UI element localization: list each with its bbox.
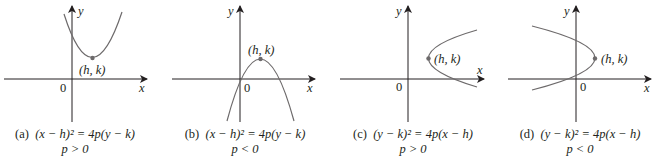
equation-text: (x − h)² = 4p(y − k) bbox=[35, 127, 135, 141]
caption-c: (c) (y − k)² = 4p(x − h) p > 0 bbox=[343, 127, 483, 157]
equation-text: (y − k)² = 4p(x − h) bbox=[540, 127, 640, 141]
origin-label: 0 bbox=[396, 80, 402, 94]
condition-text: p > 0 bbox=[399, 142, 426, 156]
x-axis-label: x bbox=[643, 81, 650, 95]
y-axis-label: y bbox=[394, 4, 402, 18]
caption-equation: (d) (y − k)² = 4p(x − h) bbox=[510, 127, 650, 142]
vertex-dot bbox=[426, 56, 430, 60]
parabola-curve bbox=[227, 59, 294, 121]
caption-condition: p < 0 bbox=[175, 142, 315, 157]
vertex-dot bbox=[258, 57, 262, 61]
vertex-label: (h, k) bbox=[79, 63, 105, 77]
parabola-curve bbox=[64, 12, 122, 58]
origin-label: 0 bbox=[244, 81, 250, 95]
panel-b: y x 0 (h, k) bbox=[172, 4, 315, 122]
caption-equation: (a) (x − h)² = 4p(y − k) bbox=[5, 127, 145, 142]
vertex-dot bbox=[593, 56, 597, 60]
vertex-label: (h, k) bbox=[601, 52, 627, 66]
equation-text: (x − h)² = 4p(y − k) bbox=[205, 127, 305, 141]
condition-text: p > 0 bbox=[61, 142, 88, 156]
caption-equation: (c) (y − k)² = 4p(x − h) bbox=[343, 127, 483, 142]
panel-a: y x 0 (h, k) bbox=[4, 4, 147, 122]
panel-c: y x 0 (h, k) bbox=[340, 4, 484, 122]
equation-text: (y − k)² = 4p(x − h) bbox=[373, 127, 473, 141]
vertex-label: (h, k) bbox=[434, 52, 460, 66]
caption-b: (b) (x − h)² = 4p(y − k) p < 0 bbox=[175, 127, 315, 157]
panel-d: y x 0 (h, k) bbox=[508, 4, 651, 122]
caption-tag: (c) bbox=[353, 127, 367, 141]
caption-a: (a) (x − h)² = 4p(y − k) p > 0 bbox=[5, 127, 145, 157]
caption-equation: (b) (x − h)² = 4p(y − k) bbox=[175, 127, 315, 142]
condition-text: p < 0 bbox=[566, 142, 593, 156]
vertex-label: (h, k) bbox=[248, 43, 274, 57]
y-axis-label: y bbox=[562, 4, 570, 18]
caption-condition: p > 0 bbox=[5, 142, 145, 157]
y-axis-label: y bbox=[76, 4, 84, 18]
condition-text: p < 0 bbox=[231, 142, 258, 156]
caption-d: (d) (y − k)² = 4p(x − h) p < 0 bbox=[510, 127, 650, 157]
origin-label: 0 bbox=[60, 81, 66, 95]
caption-tag: (d) bbox=[520, 127, 535, 141]
x-axis-label: x bbox=[138, 81, 145, 95]
caption-condition: p > 0 bbox=[343, 142, 483, 157]
vertex-dot bbox=[90, 56, 94, 60]
caption-tag: (b) bbox=[185, 127, 200, 141]
caption-tag: (a) bbox=[15, 127, 29, 141]
x-axis-label: x bbox=[476, 63, 483, 77]
origin-label: 0 bbox=[580, 80, 586, 94]
y-axis-label: y bbox=[226, 4, 234, 18]
x-axis-label: x bbox=[306, 81, 313, 95]
caption-condition: p < 0 bbox=[510, 142, 650, 157]
